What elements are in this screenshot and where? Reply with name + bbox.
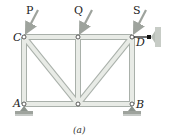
truss-members xyxy=(24,37,132,104)
joint-d xyxy=(130,35,134,39)
joint-d-label: D xyxy=(135,36,145,49)
load-p-label: P xyxy=(26,4,34,17)
joint-a xyxy=(22,102,26,106)
wall xyxy=(155,27,161,47)
joint-bottom-middle xyxy=(76,102,80,106)
load-s-label: S xyxy=(133,4,141,17)
joint-b xyxy=(130,102,134,106)
truss-diagram: P Q S C D A B (a) xyxy=(0,0,171,139)
joint-c-label: C xyxy=(13,31,22,44)
figure-caption: (a) xyxy=(73,125,86,135)
load-arrows xyxy=(26,10,146,33)
load-q-label: Q xyxy=(74,4,83,17)
joint-top-middle xyxy=(76,35,80,39)
joint-a-label: A xyxy=(12,97,21,110)
joint-b-label: B xyxy=(135,98,144,111)
joint-c xyxy=(22,35,26,39)
